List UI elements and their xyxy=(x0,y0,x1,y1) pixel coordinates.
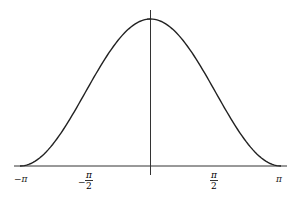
fraction-denominator: 2 xyxy=(86,181,92,191)
fraction-numerator: π xyxy=(210,170,218,181)
tick-label-neg-pi: −π xyxy=(14,175,27,184)
fraction-numerator: π xyxy=(85,170,93,181)
tick-label-pi: π xyxy=(276,175,282,184)
tick-label-half-pi: π 2 xyxy=(210,170,218,191)
plot-area xyxy=(0,0,300,199)
fraction-denominator: 2 xyxy=(211,181,217,191)
